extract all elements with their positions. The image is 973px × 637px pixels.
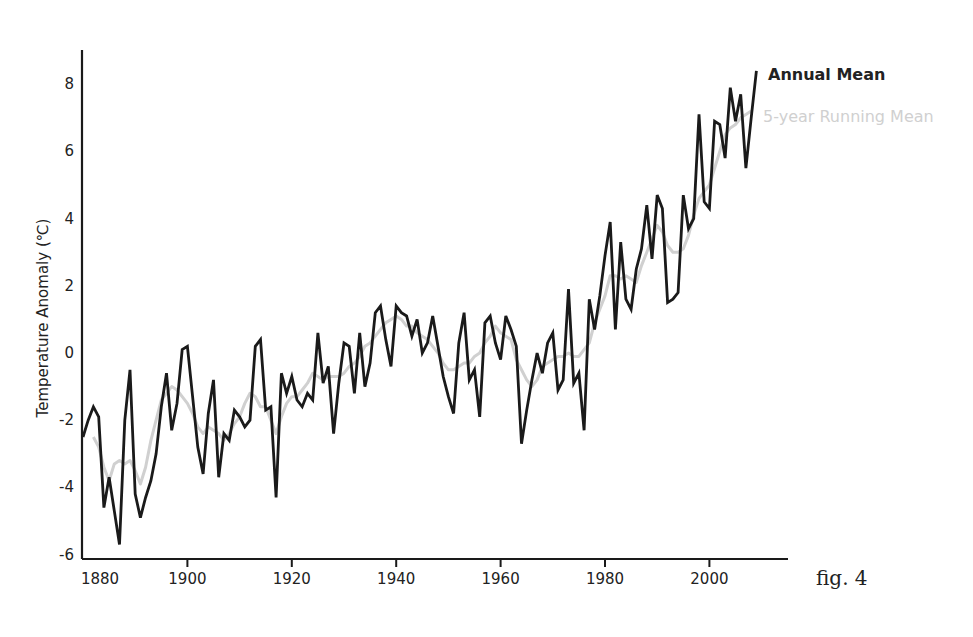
y-tick-label: -2	[59, 411, 74, 429]
y-tick-label: 4	[64, 210, 74, 228]
x-tick-label: 1960	[482, 570, 520, 588]
y-tick-label: -6	[59, 546, 74, 564]
legend-annual-mean: Annual Mean	[768, 65, 885, 84]
x-tick-label: 1980	[586, 570, 624, 588]
y-tick-label: 2	[64, 277, 74, 295]
figure-label: fig. 4	[816, 566, 868, 590]
y-axis-ticks: -6-4-202468	[59, 75, 74, 563]
x-tick-label: 2000	[690, 570, 728, 588]
x-tick-label: 1900	[168, 570, 206, 588]
running-mean-line	[93, 111, 751, 484]
y-tick-label: 6	[64, 142, 74, 160]
x-tick-label: 1920	[273, 570, 311, 588]
annual-mean-line	[83, 71, 756, 545]
y-tick-label: -4	[59, 478, 74, 496]
x-tick-label: 1880	[81, 570, 119, 588]
y-axis-label: Temperature Anomaly (℃)	[34, 219, 52, 419]
temperature-anomaly-chart: -6-4-202468 1880190019201940196019802000…	[0, 0, 973, 637]
x-axis-ticks: 1880190019201940196019802000	[81, 559, 729, 588]
legend-running-mean: 5-year Running Mean	[763, 107, 934, 126]
y-tick-label: 8	[64, 75, 74, 93]
y-tick-label: 0	[64, 344, 74, 362]
x-tick-label: 1940	[377, 570, 415, 588]
